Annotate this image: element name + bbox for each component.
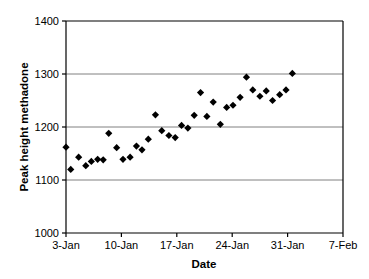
x-tick-label: 10-Jan [105, 239, 139, 251]
y-tick-label: 1200 [35, 121, 59, 133]
x-axis-title: Date [192, 258, 217, 270]
x-tick-label: 7-Feb [329, 239, 358, 251]
y-tick-label: 1100 [35, 174, 59, 186]
x-tick-label: 3-Jan [52, 239, 80, 251]
y-tick-label: 1400 [35, 15, 59, 27]
y-axis-title: Peak height methadone [18, 62, 30, 191]
y-tick-label: 1300 [35, 68, 59, 80]
x-tick-label: 31-Jan [271, 239, 305, 251]
x-tick-label: 24-Jan [215, 239, 249, 251]
x-tick-label: 17-Jan [160, 239, 194, 251]
chart-canvas: 10001100120013001400 3-Jan10-Jan17-Jan24… [0, 0, 369, 279]
scatter-chart-figure: 10001100120013001400 3-Jan10-Jan17-Jan24… [0, 0, 369, 279]
y-tick-label: 1000 [35, 227, 59, 239]
